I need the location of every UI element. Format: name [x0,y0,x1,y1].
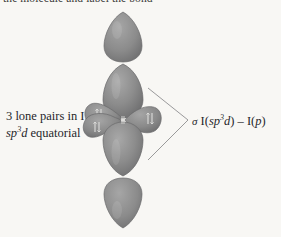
label-lone-pairs: 3 lone pairs in I sp3d equatorial [6,108,106,142]
atom1-open: I( [197,114,208,128]
axial-p-lobe-bottom-outer [104,178,142,228]
label-lone-pairs-line1: 3 lone pairs in I [6,108,106,125]
central-atom-node [121,116,125,124]
hybrid-sp: sp [209,114,220,128]
axial-hybrid-lobe-bottom [103,122,143,176]
sp-text: sp [6,126,17,140]
equatorial-text: equatorial [27,126,80,140]
atom2-open: I( [244,114,255,128]
atom2-close: ) [262,114,266,128]
axial-p-lobe-top-outer [104,12,142,62]
orbital-figure: the molecule and label the bonds. [0,0,281,237]
label-sigma-bond: σ I(sp3d) – I(p) [192,113,266,129]
atom1-close: ) [230,114,237,128]
label-lone-pairs-line2: sp3d equatorial [6,125,106,142]
